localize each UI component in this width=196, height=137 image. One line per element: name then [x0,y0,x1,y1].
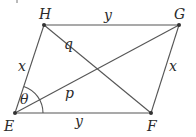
side-label-fg: x [169,58,177,74]
vertex-h-point [42,23,46,27]
diagonal-label-p: p [65,85,74,101]
vertex-label-h: H [38,6,52,22]
vertex-e-point [13,111,17,115]
vertex-label-e: E [3,118,14,134]
side-label-ef: y [74,113,84,129]
diagonal-hf [44,25,151,113]
parallelogram-diagram: H G E F y y x x q p θ [0,0,196,137]
diagonal-label-p-q: q [64,36,73,52]
side-label-hg: y [103,7,113,23]
vertex-label-g: G [174,6,185,22]
angle-label-theta: θ [20,91,29,107]
vertex-f-point [149,111,153,115]
vertex-label-f: F [146,118,158,134]
side-label-eh: x [18,58,26,74]
vertex-g-point [177,23,181,27]
